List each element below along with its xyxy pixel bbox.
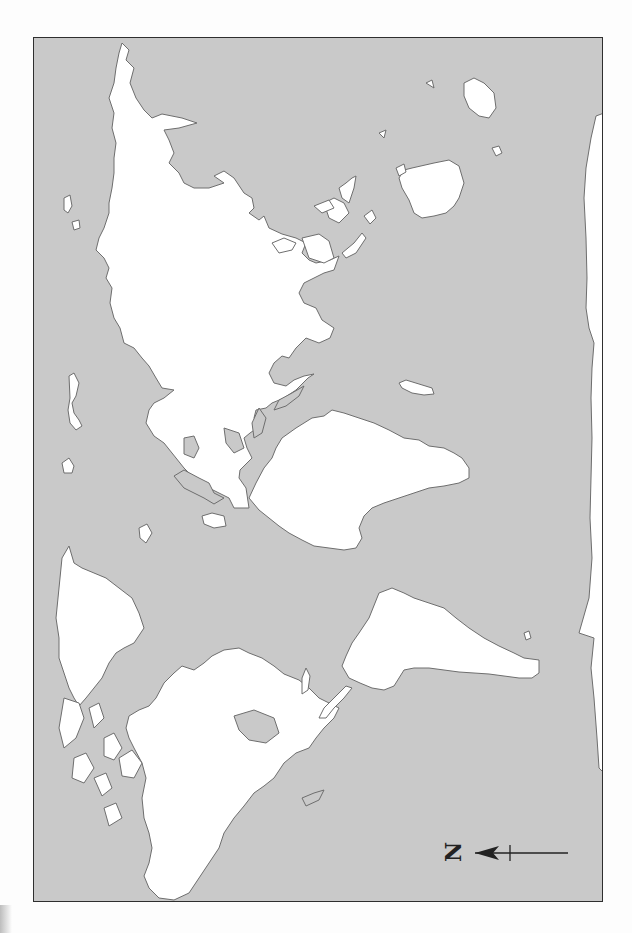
iceland-island: [62, 458, 74, 473]
great-lakes: [302, 790, 324, 806]
page: N: [0, 0, 632, 933]
japan-islands: [64, 195, 80, 230]
madagascar-island: [399, 380, 434, 395]
map-frame: [33, 37, 603, 902]
australia-landmass: [464, 78, 496, 118]
svalbard-island: [139, 524, 152, 543]
sri-lanka-island: [202, 513, 226, 528]
north-arrow-compass: N: [443, 838, 573, 868]
world-map: [34, 38, 603, 902]
philippines-islands: [339, 176, 356, 203]
falkland-islands: [524, 631, 531, 640]
british-isles: [68, 373, 82, 430]
greenland-island: [56, 546, 144, 706]
north-arrow-icon: [465, 838, 575, 868]
pacific-islands: [379, 80, 434, 176]
antarctica-landmass: [579, 113, 603, 773]
south-america-landmass: [342, 588, 539, 690]
new-guinea-island: [399, 160, 464, 218]
africa-landmass: [249, 410, 469, 550]
java-island: [342, 233, 366, 258]
page-edge-shadow: [0, 905, 12, 933]
tasmania-island: [492, 146, 502, 156]
north-label: N: [439, 842, 467, 862]
